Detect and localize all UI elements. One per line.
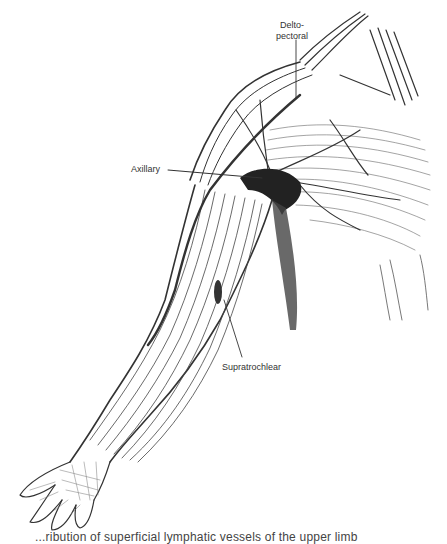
axillary-node-mass xyxy=(240,169,301,215)
label-line-1: Delto- xyxy=(276,20,308,31)
label-supratrochlear: Supratrochlear xyxy=(222,362,281,373)
label-axillary: Axillary xyxy=(131,164,160,175)
arm-outline-lateral xyxy=(70,185,195,462)
label-deltopectoral: Delto- pectoral xyxy=(276,20,308,42)
figure-caption-truncated: ...ribution of superficial lymphatic ves… xyxy=(35,530,358,544)
label-line-2: pectoral xyxy=(276,31,308,42)
neck-muscle-strands xyxy=(300,12,418,105)
latissimus-shading xyxy=(272,200,297,330)
arm-lymph-vessels xyxy=(90,190,262,462)
supratrochlear-node xyxy=(214,280,222,304)
arm-outline-medial xyxy=(110,200,272,462)
